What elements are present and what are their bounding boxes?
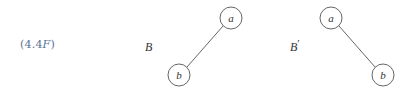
node-label: a [228,12,234,24]
node-label: a [328,12,334,24]
binary-tree-diagram: a b a b [0,0,412,92]
edge-a-b [339,26,375,67]
node-label: b [176,69,182,81]
node-a: a [220,7,242,29]
node-b: b [168,64,190,86]
tree-b-prime: a b [320,7,394,86]
node-label: b [380,69,386,81]
node-a: a [320,7,342,29]
tree-b: a b [168,7,242,86]
edge-a-b [187,26,223,67]
node-b: b [372,64,394,86]
